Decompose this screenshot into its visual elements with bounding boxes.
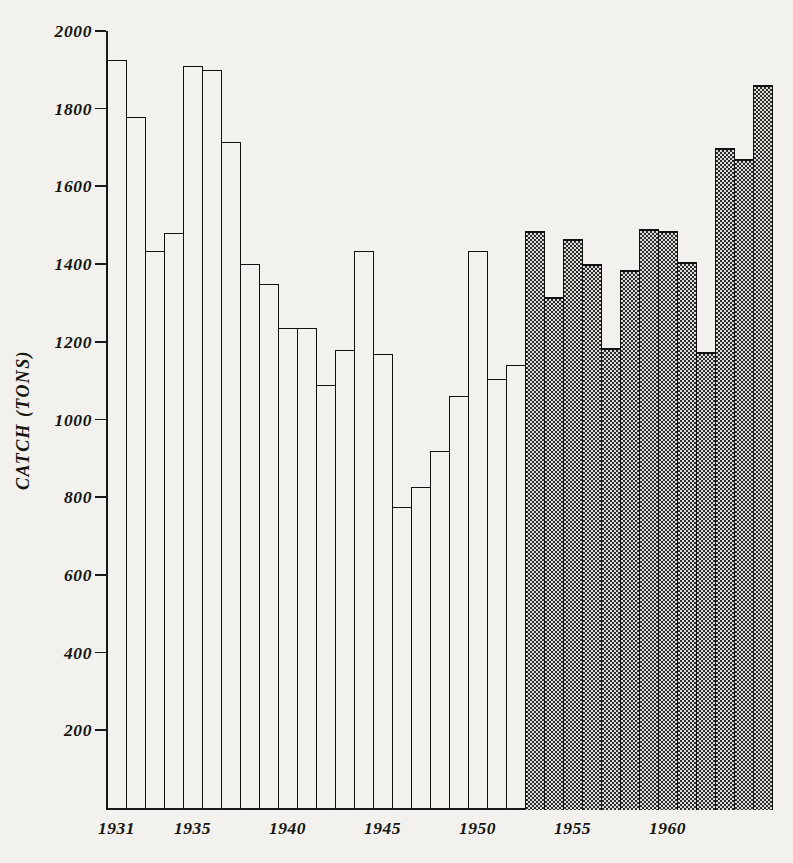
plot-area (107, 20, 772, 810)
bar (240, 264, 260, 810)
y-axis-tick-label: 600 (0, 564, 92, 585)
y-axis-tick (95, 30, 106, 32)
bar (734, 159, 754, 810)
y-axis-tick (95, 419, 106, 421)
y-axis-tick (95, 185, 106, 187)
x-axis-tick-label: 1935 (174, 818, 211, 839)
bar (753, 85, 773, 810)
bar (373, 354, 393, 810)
bar (392, 507, 412, 810)
y-axis-tick-label: 1600 (0, 176, 92, 197)
bar (715, 148, 735, 810)
bar (411, 487, 431, 810)
x-axis-tick-label: 1945 (364, 818, 401, 839)
bar (544, 297, 564, 810)
y-axis-tick (95, 574, 106, 576)
bar (164, 233, 184, 810)
bar (506, 365, 526, 810)
x-axis-tick-label: 1940 (269, 818, 306, 839)
x-axis-tick-label: 1960 (649, 818, 686, 839)
bar (354, 251, 374, 810)
bar (297, 328, 317, 810)
bar (639, 229, 659, 810)
y-axis-tick (95, 108, 106, 110)
bar (221, 142, 241, 810)
bar (487, 379, 507, 810)
bar (449, 396, 469, 810)
bar (468, 251, 488, 810)
bar (430, 451, 450, 810)
y-axis-tick-label: 400 (0, 642, 92, 663)
x-axis-tick-label: 1955 (554, 818, 591, 839)
bar (259, 284, 279, 810)
y-axis-tick-label: 1000 (0, 409, 92, 430)
bar (126, 117, 146, 810)
bar (601, 348, 621, 810)
y-axis-tick (95, 729, 106, 731)
y-axis-tick (95, 496, 106, 498)
bar (563, 239, 583, 810)
y-axis-tick-label: 1200 (0, 331, 92, 352)
y-axis-tick-label: 1800 (0, 98, 92, 119)
bar (316, 385, 336, 810)
bar (658, 231, 678, 810)
y-axis-tick-label: 200 (0, 720, 92, 741)
x-axis-tick-label: 1931 (98, 818, 135, 839)
bar (525, 231, 545, 810)
y-axis-tick (95, 341, 106, 343)
bar (582, 264, 602, 810)
chart-figure: CATCH (TONS) 200400600800100012001400160… (0, 0, 793, 863)
bar (107, 60, 127, 810)
bar (677, 262, 697, 810)
x-axis-tick-label: 1950 (459, 818, 496, 839)
y-axis-tick-label: 1400 (0, 254, 92, 275)
bar (335, 350, 355, 810)
bar (145, 251, 165, 810)
y-axis-tick (95, 652, 106, 654)
bar (278, 328, 298, 810)
bar (183, 66, 203, 810)
y-axis-tick-label: 800 (0, 487, 92, 508)
y-axis-tick (95, 263, 106, 265)
bar (696, 352, 716, 810)
bar (620, 270, 640, 810)
bar (202, 70, 222, 810)
y-axis-tick-label: 2000 (0, 21, 92, 42)
bar-series (107, 22, 772, 810)
